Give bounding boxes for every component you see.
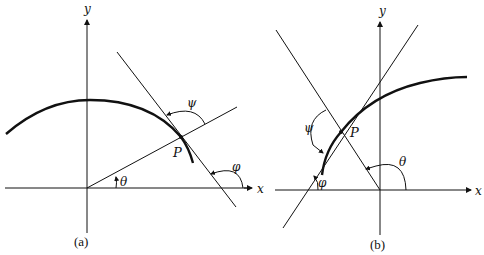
point-p-b xyxy=(339,130,343,134)
panel-b: y x x P θ ψ φ (b) xyxy=(244,4,482,252)
panel-a: y P θ ψ φ (a) xyxy=(5,2,250,249)
x-axis-label-b: x xyxy=(475,184,482,198)
y-axis-label-a: y xyxy=(83,2,91,16)
point-p-a xyxy=(179,135,183,139)
phi-label-a: φ xyxy=(232,160,241,174)
y-axis-label-b: y xyxy=(378,4,386,18)
point-p-label-b: P xyxy=(349,125,359,140)
x-axis-label-a: x xyxy=(257,182,264,196)
theta-label-b: θ xyxy=(399,155,407,169)
phi-label-b: φ xyxy=(318,176,327,190)
curve-b xyxy=(322,77,467,175)
caption-a: (a) xyxy=(74,234,88,249)
theta-label-a: θ xyxy=(120,175,128,189)
curve-a xyxy=(6,100,193,163)
point-p-label-a: P xyxy=(172,145,182,160)
figure: y P θ ψ φ (a) y x x xyxy=(0,0,484,255)
psi-label-b: ψ xyxy=(304,121,314,135)
psi-label-a: ψ xyxy=(187,96,197,110)
tangent-line-a xyxy=(117,52,236,207)
theta-arc-a xyxy=(116,177,117,188)
psi-arc-a xyxy=(167,111,205,124)
caption-b: (b) xyxy=(370,237,385,252)
